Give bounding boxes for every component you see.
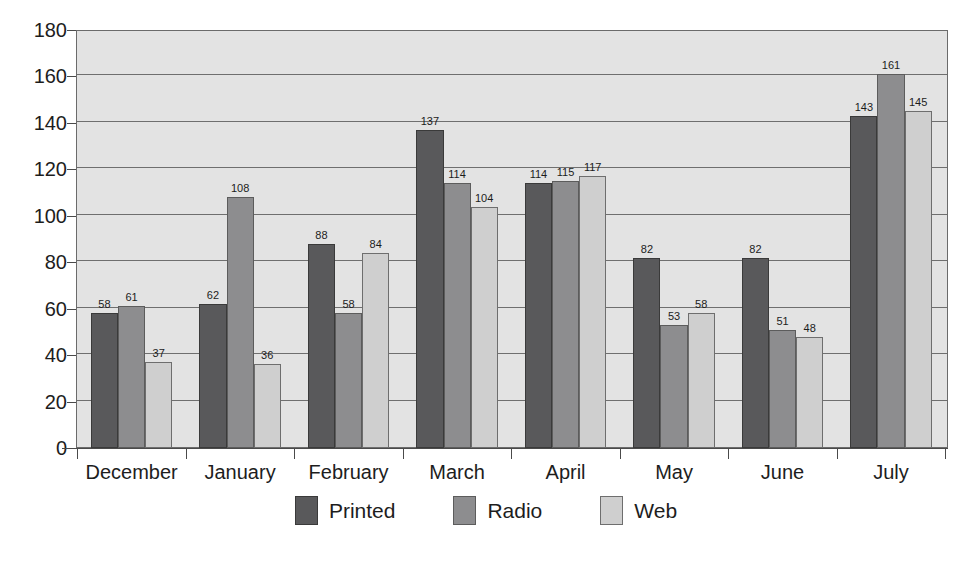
bar xyxy=(145,362,172,448)
y-axis-tick-mark xyxy=(67,216,76,217)
x-axis-tick-mark xyxy=(511,448,512,459)
x-axis-tick-mark xyxy=(294,448,295,459)
x-axis-line xyxy=(62,448,948,449)
bar xyxy=(688,313,715,448)
legend: PrintedRadioWeb xyxy=(0,496,972,525)
y-axis-tick-mark xyxy=(67,309,76,310)
bar xyxy=(905,111,932,448)
legend-item[interactable]: Printed xyxy=(295,496,396,525)
y-axis-tick-mark xyxy=(67,262,76,263)
bar-value-label: 48 xyxy=(787,323,833,334)
legend-swatch xyxy=(453,496,476,525)
bar-value-label: 161 xyxy=(868,60,914,71)
bar xyxy=(335,313,362,448)
x-axis-tick-mark xyxy=(620,448,621,459)
x-axis-category-label: February xyxy=(309,462,389,482)
bar xyxy=(769,330,796,448)
legend-label: Web xyxy=(634,500,677,521)
legend-label: Radio xyxy=(487,500,542,521)
x-axis-tick-mark xyxy=(837,448,838,459)
bar xyxy=(877,74,904,448)
y-axis-tick-mark xyxy=(67,123,76,124)
bar xyxy=(579,176,606,448)
bar-value-label: 61 xyxy=(109,292,155,303)
bar xyxy=(227,197,254,448)
legend-label: Printed xyxy=(329,500,396,521)
bar-value-label: 84 xyxy=(353,239,399,250)
y-axis-tick-mark xyxy=(67,30,76,31)
x-axis-tick-mark xyxy=(186,448,187,459)
y-axis-tick-mark xyxy=(67,169,76,170)
bar xyxy=(471,207,498,449)
x-axis-category-label: December xyxy=(85,462,177,482)
x-axis-category-label: April xyxy=(546,462,586,482)
x-axis-tick-mark xyxy=(728,448,729,459)
x-axis-tick-mark xyxy=(945,448,946,459)
y-axis-tick-mark xyxy=(67,76,76,77)
legend-swatch xyxy=(600,496,623,525)
bar xyxy=(308,244,335,448)
x-axis-tick-mark xyxy=(77,448,78,459)
y-axis: 020406080100120140160180 xyxy=(0,30,76,448)
bar-value-label: 137 xyxy=(407,116,453,127)
x-axis-category-label: May xyxy=(655,462,693,482)
bar-value-label: 82 xyxy=(624,244,670,255)
bar-value-label: 88 xyxy=(298,230,344,241)
bar-value-label: 82 xyxy=(732,244,778,255)
x-axis: DecemberJanuaryFebruaryMarchAprilMayJune… xyxy=(76,448,948,494)
x-axis-category-label: January xyxy=(205,462,276,482)
bar xyxy=(850,116,877,448)
bar-value-label: 104 xyxy=(461,193,507,204)
y-axis-tick-mark xyxy=(67,355,76,356)
bars-layer: 5861376210836885884137114104114115117825… xyxy=(76,30,948,448)
bar-value-label: 108 xyxy=(217,183,263,194)
x-axis-tick-mark xyxy=(403,448,404,459)
y-axis-tick-mark xyxy=(67,402,76,403)
legend-swatch xyxy=(295,496,318,525)
bar-value-label: 37 xyxy=(136,348,182,359)
bar-value-label: 145 xyxy=(895,97,941,108)
bar xyxy=(444,183,471,448)
legend-item[interactable]: Radio xyxy=(453,496,542,525)
x-axis-category-label: July xyxy=(873,462,909,482)
bar xyxy=(742,258,769,448)
bar xyxy=(254,364,281,448)
bar-value-label: 114 xyxy=(434,169,480,180)
x-axis-category-label: March xyxy=(429,462,485,482)
x-axis-category-label: June xyxy=(761,462,804,482)
bar xyxy=(362,253,389,448)
bar xyxy=(199,304,226,448)
bar xyxy=(91,313,118,448)
bar-value-label: 117 xyxy=(570,162,616,173)
bar-chart: 020406080100120140160180 586137621083688… xyxy=(0,0,972,567)
bar xyxy=(796,337,823,448)
bar-value-label: 58 xyxy=(678,299,724,310)
bar xyxy=(118,306,145,448)
legend-item[interactable]: Web xyxy=(600,496,677,525)
bar xyxy=(525,183,552,448)
bar xyxy=(660,325,687,448)
bar xyxy=(552,181,579,448)
bar xyxy=(633,258,660,448)
bar-value-label: 36 xyxy=(244,350,290,361)
